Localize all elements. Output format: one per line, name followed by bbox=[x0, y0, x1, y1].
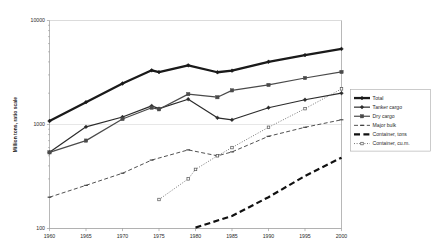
series-total bbox=[48, 47, 344, 123]
square-marker-icon bbox=[360, 115, 363, 118]
y-tick-label: 100 bbox=[36, 225, 45, 231]
square-marker-icon bbox=[340, 88, 343, 91]
series-line bbox=[50, 93, 342, 152]
diamond-marker-icon bbox=[340, 91, 344, 95]
line-chart: 100001000100 196019651970197519801985199… bbox=[0, 0, 433, 252]
legend-item-label: Container, tons bbox=[373, 131, 408, 137]
square-marker-icon bbox=[303, 76, 306, 79]
square-marker-icon bbox=[267, 126, 270, 129]
chart-canvas: 100001000100 196019651970197519801985199… bbox=[0, 0, 433, 252]
square-marker-icon bbox=[158, 198, 161, 201]
x-tick-marks bbox=[50, 229, 342, 232]
diamond-marker-icon bbox=[230, 118, 234, 122]
square-marker-icon bbox=[304, 107, 307, 110]
x-tick-label: 2000 bbox=[336, 233, 348, 239]
chart-legend: TotalTanker cargoDry cargoMajor bulkCont… bbox=[351, 90, 431, 152]
x-tick-label: 1965 bbox=[80, 233, 92, 239]
legend-item-label: Tanker cargo bbox=[373, 104, 403, 110]
y-tick-label: 10000 bbox=[31, 17, 46, 23]
square-marker-icon bbox=[340, 70, 343, 73]
x-tick-label: 1980 bbox=[190, 233, 202, 239]
series-line bbox=[50, 72, 342, 152]
x-tick-label: 1995 bbox=[299, 233, 311, 239]
square-marker-icon bbox=[187, 92, 190, 95]
legend-item-label: Container, cu.m. bbox=[373, 140, 410, 146]
square-marker-icon bbox=[216, 96, 219, 99]
y-axis-title: Million tons, ratio scale bbox=[12, 97, 18, 153]
x-tick-label: 1985 bbox=[226, 233, 238, 239]
x-tick-labels: 196019651970197519801985199019952000 bbox=[44, 233, 348, 239]
y-tick-labels: 100001000100 bbox=[31, 17, 46, 231]
series-dry-cargo bbox=[48, 70, 343, 154]
y-tick-label: 1000 bbox=[33, 121, 45, 127]
x-tick-label: 1990 bbox=[263, 233, 275, 239]
square-marker-icon bbox=[216, 155, 219, 158]
series-container-tons bbox=[196, 158, 342, 228]
legend-item-label: Total bbox=[373, 95, 384, 101]
series-line bbox=[50, 49, 342, 121]
square-marker-icon bbox=[150, 106, 153, 109]
legend-item-label: Major bulk bbox=[373, 122, 397, 128]
square-marker-icon bbox=[194, 168, 197, 171]
legend-item-label: Dry cargo bbox=[373, 113, 395, 119]
series-major-bulk bbox=[48, 120, 344, 197]
square-marker-icon bbox=[157, 108, 160, 111]
square-marker-icon bbox=[121, 117, 124, 120]
diamond-marker-icon bbox=[303, 98, 307, 102]
square-marker-icon bbox=[361, 142, 364, 145]
square-marker-icon bbox=[230, 89, 233, 92]
square-marker-icon bbox=[267, 83, 270, 86]
diamond-marker-icon bbox=[267, 106, 271, 110]
x-tick-label: 1975 bbox=[153, 233, 165, 239]
square-marker-icon bbox=[48, 151, 51, 154]
x-tick-label: 1970 bbox=[117, 233, 129, 239]
series-tanker-cargo bbox=[48, 91, 344, 154]
series-line bbox=[50, 120, 342, 197]
square-marker-icon bbox=[231, 146, 234, 149]
square-marker-icon bbox=[84, 139, 87, 142]
square-marker-icon bbox=[187, 178, 190, 181]
x-tick-label: 1960 bbox=[44, 233, 56, 239]
series-group bbox=[48, 47, 344, 228]
y-axis-title-text: Million tons, ratio scale bbox=[12, 97, 18, 153]
series-line bbox=[196, 158, 342, 228]
